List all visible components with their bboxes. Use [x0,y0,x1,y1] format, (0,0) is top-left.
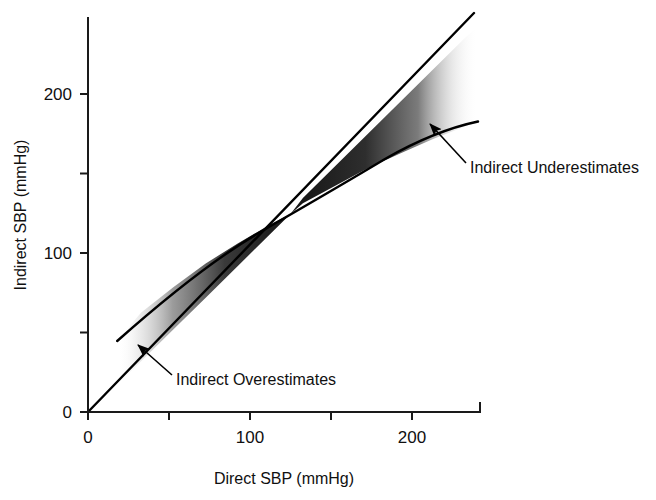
y-tick-label-200: 200 [44,85,72,104]
x-tick-label-200: 200 [398,428,426,447]
shaded-region-overestimates [117,214,290,385]
overestimates-label: Indirect Overestimates [176,371,336,388]
y-axis-title: Indirect SBP (mmHg) [12,140,29,291]
shaded-region-underestimates [291,27,479,215]
x-axis-ticks [88,412,412,420]
y-tick-label-0: 0 [63,403,72,422]
x-axis-title: Direct SBP (mmHg) [214,470,354,487]
chart-svg: 0 100 200 0 100 200 Direct SBP (mmHg) In… [0,0,656,500]
y-axis-ticks [80,94,88,412]
x-tick-label-0: 0 [83,428,92,447]
overestimates-arrow-icon [138,345,172,375]
annotation-overestimates: Indirect Overestimates [138,345,336,388]
underestimates-label: Indirect Underestimates [470,159,639,176]
y-tick-label-100: 100 [44,244,72,263]
x-tick-label-100: 100 [236,428,264,447]
annotation-underestimates: Indirect Underestimates [430,124,639,176]
chart-figure: 0 100 200 0 100 200 Direct SBP (mmHg) In… [0,0,656,500]
